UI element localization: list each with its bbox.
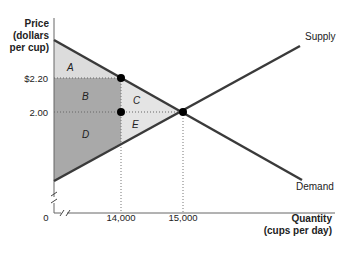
region-label-a: A [66, 62, 74, 73]
region-label-c: C [133, 95, 141, 106]
x-tick-15000: 15,000 [168, 212, 197, 223]
supply-demand-chart: A B C D E Price (dollars per cup) $2.20 … [0, 0, 354, 255]
y-tick-200: 2.00 [30, 107, 49, 118]
y-axis-title-line1: Price [25, 18, 50, 29]
region-label-b: B [82, 91, 89, 102]
supply-label: Supply [305, 31, 336, 42]
x-tick-origin: 0 [43, 212, 48, 223]
region-c-e [121, 78, 183, 143]
y-axis-title-line3: per cup) [10, 42, 49, 53]
region-label-d: D [82, 129, 89, 140]
x-axis-title-line1: Quantity [291, 213, 332, 224]
y-tick-220: $2.20 [24, 73, 48, 84]
x-axis-title-line2: (cups per day) [264, 225, 332, 236]
region-label-e: E [132, 119, 139, 130]
point-equilibrium [179, 108, 187, 116]
point-quota-price [117, 74, 125, 82]
point-quota-supply-price [117, 108, 125, 116]
x-tick-14000: 14,000 [106, 212, 135, 223]
y-axis-title-line2: (dollars [13, 30, 50, 41]
demand-label: Demand [296, 181, 334, 192]
